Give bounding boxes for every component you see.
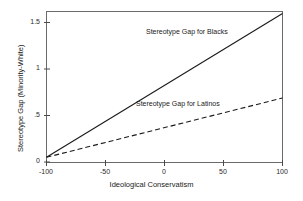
x-axis-title: Ideological Conservatism bbox=[0, 180, 303, 189]
series-label-latinos: Stereotype Gap for Latinos bbox=[136, 100, 220, 107]
x-tick-label-neg50: -50 bbox=[90, 168, 120, 175]
y-tick-label-0: 0 bbox=[14, 157, 40, 164]
y-axis-title: Stereotype Gap (Minority-White) bbox=[16, 44, 25, 152]
series-label-blacks: Stereotype Gap for Blacks bbox=[146, 28, 228, 35]
series-line-blacks bbox=[47, 14, 283, 158]
x-tick-label-0: 0 bbox=[149, 168, 179, 175]
x-tick-label-100: 100 bbox=[267, 168, 297, 175]
x-tick-label-neg100: -100 bbox=[31, 168, 61, 175]
chart-figure: 1.5 1 .5 0 -100 -50 0 50 100 Stereotype … bbox=[0, 0, 303, 201]
y-tick-label-1-5: 1.5 bbox=[14, 18, 40, 25]
x-tick-label-50: 50 bbox=[208, 168, 238, 175]
